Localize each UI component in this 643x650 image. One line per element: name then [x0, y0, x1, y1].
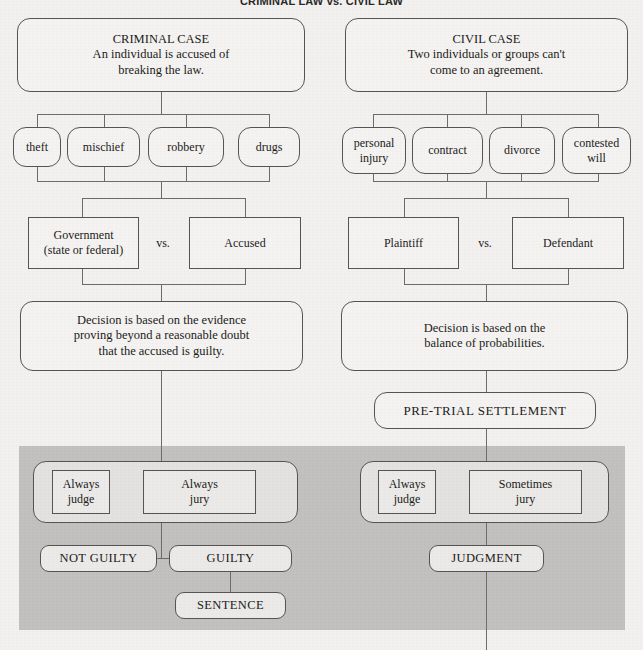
connector-civil-judgment-tail-below-band — [486, 630, 487, 650]
criminal-party-government-line-1: Government — [44, 228, 123, 243]
connector-criminal-example-3-down — [186, 167, 187, 181]
connector-criminal-party-left-join — [82, 269, 83, 284]
connector-civil-party-right-join — [568, 269, 569, 284]
connector-criminal-example-1 — [37, 114, 38, 127]
connector-criminal-verdict-stem — [161, 545, 162, 559]
connector-civil-parties-bus — [404, 198, 569, 199]
connector-criminal-example-1-down — [37, 167, 38, 181]
criminal-case-desc-line-2: breaking the law. — [93, 63, 230, 78]
connector-civil-settlement-to-deciders — [486, 429, 487, 461]
civil-pre-trial-settlement: PRE-TRIAL SETTLEMENT — [374, 392, 596, 429]
criminal-vs-label: vs. — [146, 233, 180, 253]
civil-vs-label: vs. — [468, 233, 502, 253]
civil-example-contract: contract — [412, 127, 483, 174]
criminal-verdict-guilty: GUILTY — [169, 545, 292, 572]
civil-decision-box: Decision is based on the balance of prob… — [341, 301, 628, 371]
connector-civil-party-left-join — [404, 269, 405, 284]
civil-case-desc-line-2: come to an agreement. — [408, 63, 566, 78]
connector-civil-example-3 — [521, 114, 522, 127]
connector-criminal-example-2 — [104, 114, 105, 127]
criminal-example-drugs: drugs — [238, 127, 300, 167]
civil-example-contested-will: contested will — [562, 127, 631, 174]
civil-decider-jury: Sometimes jury — [469, 470, 582, 514]
criminal-decider-jury: Always jury — [143, 470, 256, 514]
connector-criminal-parties-join-bus — [82, 284, 246, 285]
connector-civil-to-decision — [486, 284, 487, 301]
criminal-decision-line-3: that the accused is guilty. — [74, 344, 250, 359]
connector-civil-example-4 — [598, 114, 599, 127]
civil-case-title: CIVIL CASE — [408, 32, 566, 47]
criminal-decider-judge-line-2: judge — [63, 492, 100, 507]
civil-decider-jury-line-1: Sometimes — [499, 477, 552, 492]
criminal-verdict-not-guilty: NOT GUILTY — [40, 545, 157, 572]
criminal-decision-box: Decision is based on the evidence provin… — [20, 301, 303, 371]
criminal-decision-line-1: Decision is based on the evidence — [74, 313, 250, 328]
connector-criminal-example-4 — [269, 114, 270, 127]
criminal-example-theft: theft — [13, 127, 61, 167]
criminal-decider-jury-line-1: Always — [181, 477, 218, 492]
civil-decider-judge-line-1: Always — [389, 477, 426, 492]
connector-civil-deciders-to-judgment — [486, 523, 487, 545]
connector-civil-example-4-down — [598, 174, 599, 181]
connector-civil-judgment-tail — [486, 572, 487, 630]
connector-civil-decision-to-settlement — [486, 371, 487, 392]
civil-party-defendant: Defendant — [512, 217, 624, 269]
page-title: CRIMINAL LAW vs. CIVIL LAW — [0, 0, 643, 7]
connector-criminal-decision-to-deciders — [161, 371, 162, 461]
connector-criminal-example-join-bus — [37, 181, 270, 182]
civil-outcome-judgment: JUDGMENT — [429, 545, 544, 572]
connector-civil-party-left-down — [404, 198, 405, 217]
civil-example-divorce: divorce — [489, 127, 555, 174]
civil-case-desc-line-1: Two individuals or groups can't — [408, 47, 566, 62]
civil-example-personal-injury: personal injury — [342, 127, 406, 174]
connector-criminal-example-4-down — [269, 167, 270, 181]
connector-criminal-to-decision — [161, 284, 162, 301]
connector-criminal-deciders-to-verdicts — [161, 523, 162, 545]
civil-decider-judge-line-2: judge — [389, 492, 426, 507]
civil-example-contested-will-line-1: contested — [574, 136, 619, 151]
civil-case-header-box: CIVIL CASE Two individuals or groups can… — [345, 18, 628, 92]
connector-criminal-example-2-down — [104, 167, 105, 181]
connector-civil-example-2 — [447, 114, 448, 127]
connector-civil-example-1-down — [373, 174, 374, 181]
connector-criminal-to-parties — [161, 181, 162, 198]
connector-criminal-party-left-down — [82, 198, 83, 217]
connector-civil-example-2-down — [447, 174, 448, 181]
civil-example-personal-injury-line-1: personal — [354, 136, 395, 151]
connector-criminal-example-3 — [186, 114, 187, 127]
diagram-canvas: CRIMINAL LAW vs. CIVIL LAW CRIMINAL CASE… — [0, 0, 643, 650]
civil-party-plaintiff: Plaintiff — [348, 217, 459, 269]
connector-civil-to-parties — [486, 181, 487, 198]
criminal-decider-judge-line-1: Always — [63, 477, 100, 492]
criminal-case-title: CRIMINAL CASE — [93, 32, 230, 47]
criminal-case-desc-line-1: An individual is accused of — [93, 47, 230, 62]
civil-example-personal-injury-line-2: injury — [354, 151, 395, 166]
connector-criminal-header-down — [161, 92, 162, 114]
connector-civil-party-right-down — [568, 198, 569, 217]
connector-criminal-party-right-join — [245, 269, 246, 284]
criminal-example-robbery: robbery — [148, 127, 224, 167]
civil-decision-line-1: Decision is based on the — [424, 321, 546, 336]
connector-criminal-party-right-down — [245, 198, 246, 217]
civil-example-contested-will-line-2: will — [574, 151, 619, 166]
civil-decision-line-2: balance of probabilities. — [424, 336, 546, 351]
civil-decider-jury-line-2: jury — [499, 492, 552, 507]
criminal-decider-jury-line-2: jury — [181, 492, 218, 507]
connector-civil-header-down — [486, 92, 487, 114]
connector-criminal-example-bus — [37, 114, 269, 115]
criminal-decider-judge: Always judge — [52, 470, 110, 514]
connector-criminal-guilty-to-sentence — [230, 572, 231, 592]
connector-civil-example-3-down — [521, 174, 522, 181]
criminal-example-mischief: mischief — [67, 127, 140, 167]
criminal-case-header-box: CRIMINAL CASE An individual is accused o… — [17, 18, 305, 92]
connector-criminal-parties-bus — [82, 198, 246, 199]
connector-civil-example-1 — [373, 114, 374, 127]
criminal-outcome-sentence: SENTENCE — [175, 592, 286, 619]
criminal-party-accused: Accused — [189, 217, 301, 269]
criminal-party-government-line-2: (state or federal) — [44, 243, 123, 258]
criminal-decision-line-2: proving beyond a reasonable doubt — [74, 328, 250, 343]
civil-decider-judge: Always judge — [378, 470, 436, 514]
criminal-party-government: Government (state or federal) — [28, 217, 139, 269]
connector-civil-example-bus — [373, 114, 599, 115]
